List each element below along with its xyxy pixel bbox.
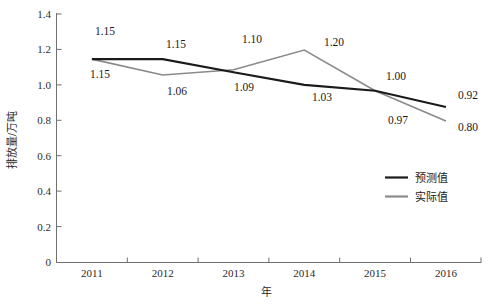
x-tick-label-2014: 2014: [293, 267, 316, 279]
y-tick-label-1.2: 1.2: [37, 43, 51, 55]
data-label-predicted-2013: 1.10: [242, 33, 262, 45]
y-tick-label-1.0: 1.0: [37, 79, 51, 91]
x-tick-label-2016: 2016: [435, 267, 458, 279]
legend-label-predicted: 预测值: [415, 172, 448, 184]
legend-label-actual: 实际值: [415, 190, 448, 203]
x-tick-label-2012: 2012: [152, 267, 174, 279]
y-tick-label-0.6: 0.6: [37, 150, 51, 162]
y-tick-label-1.4: 1.4: [37, 8, 51, 20]
data-label-actual-2013: 1.09: [234, 81, 254, 93]
data-labels-actual: 1.15 1.06 1.09 1.20 0.97 0.80: [90, 36, 478, 133]
data-label-actual-2015: 0.97: [388, 114, 408, 126]
chart-container: 1.4 1.2 1.0 0.8 0.6 0.4 0.2 0 2011 2012 …: [0, 0, 490, 304]
series-line-predicted: [92, 59, 446, 107]
x-axis-title: 年: [261, 285, 272, 298]
data-label-predicted-2015: 1.00: [386, 70, 406, 82]
series-line-actual: [92, 50, 446, 121]
chart-legend: 预测值 实际值: [385, 172, 448, 203]
y-tick-label-0: 0: [46, 256, 52, 268]
data-label-predicted-2014: 1.03: [312, 91, 332, 103]
data-label-actual-2016: 0.80: [458, 121, 478, 133]
data-label-predicted-2016: 0.92: [458, 89, 478, 101]
x-tick-label-2015: 2015: [364, 267, 387, 279]
x-tick-label-2011: 2011: [81, 267, 103, 279]
data-label-actual-2011: 1.15: [90, 68, 110, 80]
line-chart: 1.4 1.2 1.0 0.8 0.6 0.4 0.2 0 2011 2012 …: [0, 0, 490, 304]
x-tick-label-2013: 2013: [223, 267, 246, 279]
data-label-predicted-2011: 1.15: [95, 25, 115, 37]
y-tick-label-0.8: 0.8: [37, 114, 51, 126]
data-label-actual-2012: 1.06: [167, 85, 187, 97]
data-labels-predicted: 1.15 1.15 1.10 1.03 1.00 0.92: [95, 25, 478, 103]
y-tick-label-0.4: 0.4: [37, 185, 51, 197]
y-axis-title: 排放量/万吨: [5, 111, 18, 169]
y-tick-label-0.2: 0.2: [37, 221, 51, 233]
data-label-predicted-2012: 1.15: [166, 38, 186, 50]
y-axis: 1.4 1.2 1.0 0.8 0.6 0.4 0.2 0: [37, 8, 61, 268]
x-axis: 2011 2012 2013 2014 2015 2016: [57, 258, 482, 280]
data-label-actual-2014: 1.20: [324, 36, 344, 48]
